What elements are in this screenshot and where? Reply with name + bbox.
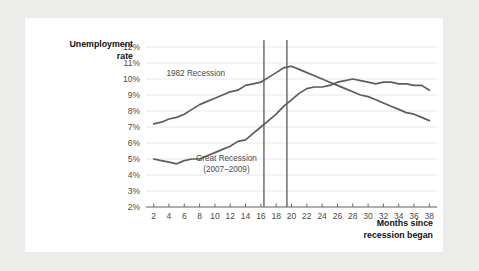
x-axis-title-line1: Months since	[377, 218, 433, 228]
vertical-marker-lines	[264, 40, 287, 207]
y-tick-label: 7%	[128, 122, 141, 132]
series-line	[154, 79, 430, 164]
y-tick-label: 5%	[128, 154, 141, 164]
y-tick-label: 3%	[128, 186, 141, 196]
y-tick-label: 2%	[128, 202, 141, 212]
x-tick-label: 2	[151, 211, 156, 221]
unemployment-rate-line-chart: 2%3%4%5%6%7%8%9%10%11%12% 24681012141618…	[25, 18, 443, 252]
x-axis-title-line2: recession began	[364, 230, 433, 240]
x-tick-label: 4	[167, 211, 172, 221]
x-tick-label: 6	[182, 211, 187, 221]
y-tick-label: 8%	[128, 106, 141, 116]
series-annotations: 1982 RecessionGreat Recession(2007–2009)	[166, 69, 257, 174]
x-tick-label: 22	[302, 211, 312, 221]
chart-svg: 2%3%4%5%6%7%8%9%10%11%12% 24681012141618…	[25, 18, 443, 252]
x-tick-label: 26	[333, 211, 343, 221]
y-axis-title-line2: rate	[117, 51, 133, 61]
x-tick-label: 28	[348, 211, 358, 221]
y-axis-title-line1: Unemployment	[69, 39, 133, 49]
x-tick-label: 14	[241, 211, 251, 221]
series-annotation: 1982 Recession	[166, 69, 225, 78]
series-annotation: Great Recession	[196, 154, 257, 163]
y-tick-label: 9%	[128, 90, 141, 100]
x-tick-label: 18	[271, 211, 281, 221]
x-tick-label: 8	[197, 211, 202, 221]
data-series	[154, 66, 430, 164]
x-tick-label: 24	[317, 211, 327, 221]
x-tick-label: 10	[210, 211, 220, 221]
y-tick-label: 6%	[128, 138, 141, 148]
x-tick-label: 16	[256, 211, 266, 221]
series-annotation: (2007–2009)	[203, 165, 250, 174]
chart-card: 2%3%4%5%6%7%8%9%10%11%12% 24681012141618…	[25, 18, 443, 252]
y-tick-label: 4%	[128, 170, 141, 180]
x-tick-label: 20	[287, 211, 297, 221]
y-axis-tick-labels: 2%3%4%5%6%7%8%9%10%11%12%	[123, 42, 140, 212]
x-tick-label: 12	[226, 211, 236, 221]
x-axis	[146, 204, 437, 208]
x-tick-label: 30	[363, 211, 373, 221]
y-tick-label: 10%	[123, 74, 140, 84]
